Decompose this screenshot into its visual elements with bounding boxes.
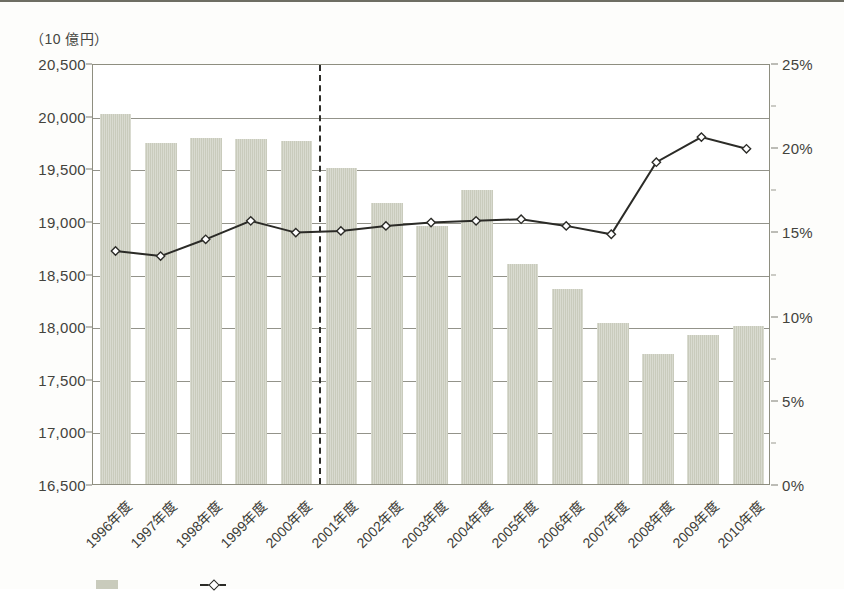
legend-item-line	[200, 580, 232, 589]
right-axis-tick-mark	[771, 232, 778, 233]
line-marker-diamond	[201, 235, 209, 243]
left-axis-tick-label: 19,000	[38, 213, 86, 230]
legend-bar-swatch-icon	[96, 580, 118, 589]
right-axis-tick-label: 25%	[782, 56, 813, 73]
right-axis-minor-tick-mark	[771, 442, 776, 443]
line-marker-diamond	[472, 217, 480, 225]
right-axis-tick-label: 15%	[782, 224, 813, 241]
line-marker-diamond	[697, 133, 705, 141]
right-axis-tick-label: 5%	[782, 392, 804, 409]
line-marker-diamond	[337, 227, 345, 235]
right-axis-tick-mark	[771, 148, 778, 149]
right-axis-minor-tick-mark	[771, 190, 776, 191]
left-axis-tick-label: 18,000	[38, 319, 86, 336]
line-marker-diamond	[562, 222, 570, 230]
line-marker-diamond	[111, 247, 119, 255]
left-axis-tick-label: 18,500	[38, 266, 86, 283]
right-axis-tick-label: 0%	[782, 477, 804, 494]
right-axis-minor-tick-mark	[771, 106, 776, 107]
line-marker-diamond	[292, 228, 300, 236]
left-axis-tick-label: 20,000	[38, 108, 86, 125]
left-axis-tick-label: 20,500	[38, 56, 86, 73]
line-path	[116, 137, 747, 256]
right-axis-tick-mark	[771, 485, 778, 486]
right-axis-tick-label: 20%	[782, 140, 813, 157]
right-axis-tick-mark	[771, 400, 778, 401]
line-marker-diamond	[382, 222, 390, 230]
line-marker-diamond	[517, 215, 525, 223]
chart-legend	[96, 578, 232, 591]
legend-line-swatch-icon	[200, 580, 226, 589]
left-axis-tick-label: 19,500	[38, 161, 86, 178]
line-marker-diamond	[427, 218, 435, 226]
line-marker-diamond	[156, 252, 164, 260]
left-axis-tick-label: 17,500	[38, 371, 86, 388]
right-axis-tick-mark	[771, 316, 778, 317]
right-axis-minor-tick-mark	[771, 274, 776, 275]
right-axis-tick-label: 10%	[782, 308, 813, 325]
y-axis-unit-caption: （10 億円）	[30, 28, 109, 48]
right-axis-tick-mark	[771, 64, 778, 65]
legend-item-bar	[96, 580, 124, 589]
left-axis-tick-label: 16,500	[38, 477, 86, 494]
line-marker-diamond	[742, 145, 750, 153]
right-axis-minor-tick-mark	[771, 358, 776, 359]
line-marker-diamond	[247, 217, 255, 225]
left-axis-tick-label: 17,000	[38, 424, 86, 441]
line-series	[93, 65, 769, 484]
plot-area	[92, 64, 770, 485]
